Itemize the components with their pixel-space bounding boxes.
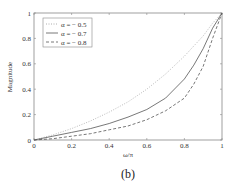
- legend-label-0: α = − 0.5: [61, 21, 87, 29]
- svg-text:0.8: 0.8: [22, 35, 31, 43]
- svg-text:0.4: 0.4: [22, 86, 31, 94]
- legend-label-1: α = − 0.7: [61, 30, 87, 38]
- x-axis-label: ω/π: [123, 151, 134, 159]
- legend-label-2: α = − 0.8: [61, 39, 87, 47]
- svg-text:0.4: 0.4: [105, 142, 114, 150]
- y-axis-label: Magnitude: [6, 62, 14, 92]
- svg-text:0.2: 0.2: [22, 111, 31, 119]
- svg-text:0: 0: [32, 142, 36, 150]
- magnitude-chart: 00.20.40.60.8100.20.40.60.81 ω/π Magnitu…: [0, 0, 230, 189]
- svg-text:0.8: 0.8: [180, 142, 189, 150]
- svg-text:1: 1: [28, 10, 32, 18]
- svg-text:0.6: 0.6: [142, 142, 151, 150]
- legend: α = − 0.5 α = − 0.7 α = − 0.8: [43, 18, 92, 47]
- svg-text:0.2: 0.2: [67, 142, 76, 150]
- svg-text:1: 1: [220, 142, 224, 150]
- figure-caption: (b): [121, 167, 135, 181]
- svg-text:0.6: 0.6: [22, 60, 31, 68]
- svg-text:0: 0: [28, 137, 32, 145]
